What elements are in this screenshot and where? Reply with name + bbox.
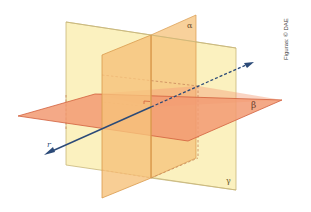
- credit-text: Figuras: © DAE: [283, 18, 289, 60]
- three-perpendicular-planes-diagram: α β γ r: [0, 0, 311, 212]
- arrowhead-icon: [244, 62, 254, 68]
- label-beta: β: [251, 100, 256, 110]
- plane-alpha-front: [102, 35, 151, 198]
- label-alpha: α: [187, 21, 193, 30]
- figure-credit: Figuras: © DAE: [283, 4, 303, 64]
- label-gamma: γ: [226, 176, 231, 185]
- label-r: r: [47, 140, 52, 149]
